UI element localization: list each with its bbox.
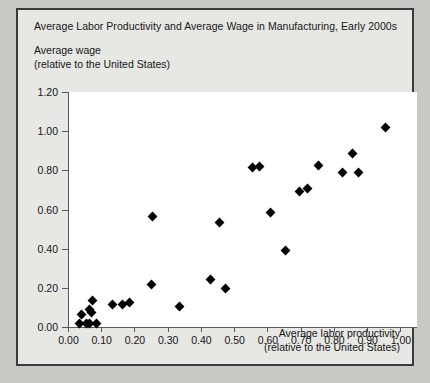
y-tick: 1.20 [62,92,68,93]
x-tick: 1.00 [400,327,401,332]
y-tick-label: 1.00 [38,125,58,137]
x-tick: 0.50 [234,327,235,332]
x-tick-label: 0.00 [58,334,78,346]
x-tick: 0.30 [168,327,169,332]
x-axis-label-line1: Average labor productivity [279,327,400,339]
x-tick: 0.20 [134,327,135,332]
y-axis-label: Average wage (relative to the United Sta… [34,44,170,71]
chart-figure: Average Labor Productivity and Average W… [16,8,414,366]
x-tick-label: 0.20 [125,334,145,346]
y-tick: 0.20 [62,288,68,289]
x-tick: 0.00 [68,327,69,332]
y-tick-label: 0.60 [38,204,58,216]
y-tick: 0.40 [62,249,68,250]
y-tick: 0.80 [62,170,68,171]
y-axis-label-line2: (relative to the United States) [34,58,170,72]
y-tick-label: 0.40 [38,243,58,255]
y-tick-label: 0.80 [38,164,58,176]
x-tick-label: 0.30 [158,334,178,346]
y-axis-label-line1: Average wage [34,44,101,56]
y-tick-label: 1.20 [38,86,58,98]
y-tick-label: 0.20 [38,282,58,294]
x-tick-label: 0.50 [224,334,244,346]
plot-area [68,92,417,327]
x-tick: 0.10 [101,327,102,332]
x-tick: 0.40 [201,327,202,332]
y-axis-line [68,92,69,328]
x-tick-label: 0.40 [191,334,211,346]
y-tick: 1.00 [62,131,68,132]
y-tick: 0.60 [62,210,68,211]
x-axis-label: Average labor productivity (relative to … [264,327,400,354]
y-tick-label: 0.00 [38,321,58,333]
x-tick-label: 0.10 [92,334,112,346]
x-axis-label-line2: (relative to the United States) [264,341,400,355]
chart-title: Average Labor Productivity and Average W… [34,20,397,32]
